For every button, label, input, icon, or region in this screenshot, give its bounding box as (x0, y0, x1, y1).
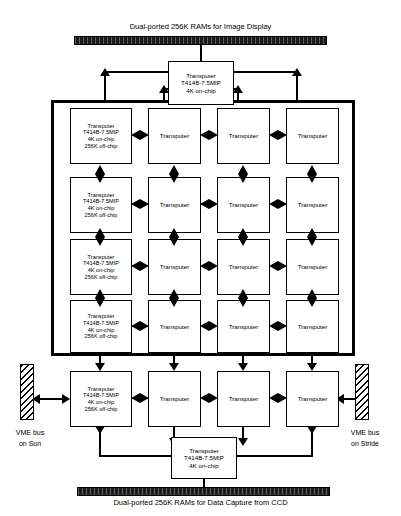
grid-node-r1c3-label: Transputer (229, 132, 259, 139)
grid-node-r2c1-line2: T414B-7.5MIP (83, 198, 119, 205)
vme-bus-sun-label-line1: VME bus (16, 429, 44, 436)
vme-bus-sun-label: VME bus on Sun (0, 428, 60, 449)
vme-bus-stride-label-line2: on Stride (351, 440, 379, 447)
link-r4c1-c2 (131, 321, 149, 332)
grid-node-r3c3-label: Transputer (229, 263, 259, 270)
link-r1c3-r2c3 (238, 165, 249, 183)
link-r5c3-c4 (269, 393, 287, 404)
display-controller-line2: T414B-7.5MIP (181, 79, 221, 86)
grid-node-r3c1[interactable]: Transputer T414B-7.5MIP 4K on-chip 256K … (70, 239, 132, 295)
grid-node-r4c2-label: Transputer (160, 323, 190, 330)
grid-node-r5c3[interactable]: Transputer (217, 371, 270, 427)
grid-node-r2c1-line4: 256K off-chip (85, 212, 118, 219)
vme-bus-sun-label-line2: on Sun (19, 440, 41, 447)
ram-to-display-link (200, 44, 202, 61)
grid-node-r3c3[interactable]: Transputer (217, 239, 270, 295)
capture-feed-col1-arrow (95, 426, 105, 434)
link-r1c2-r2c2 (169, 165, 180, 183)
grid-node-r2c1[interactable]: Transputer T414B-7.5MIP 4K on-chip 256K … (70, 177, 132, 233)
link-r3c1-r4c1 (95, 289, 106, 307)
grid-node-r3c2[interactable]: Transputer (148, 239, 201, 295)
link-r3c3-c4 (269, 261, 287, 272)
row4-to-row5-arrow-c4 (307, 363, 317, 371)
capture-controller-line1: Transputer (189, 447, 219, 454)
link-r5c2-c3 (200, 393, 218, 404)
grid-node-r1c2-label: Transputer (160, 132, 190, 139)
row4-to-row5-arrow-c2 (169, 363, 179, 371)
grid-node-r3c4-label: Transputer (298, 263, 328, 270)
row4-to-row5-arrow-c3 (238, 363, 248, 371)
grid-node-r1c1-line4: 256K off-chip (85, 143, 118, 150)
link-r3c1-c2 (131, 261, 149, 272)
grid-node-r1c1-line3: 4K on-chip (88, 136, 115, 143)
display-feed-rail-left (105, 71, 170, 73)
grid-node-r3c1-line4: 256K off-chip (85, 274, 118, 281)
grid-node-r4c1-line4: 256K off-chip (85, 333, 118, 340)
link-r2c1-r3c1 (95, 228, 106, 246)
grid-node-r1c1[interactable]: Transputer T414B-7.5MIP 4K on-chip 256K … (70, 108, 132, 164)
grid-node-r2c2-label: Transputer (160, 201, 190, 208)
capture-controller-node[interactable]: Transputer T414B-7.5MIP 4K on-chip (171, 437, 237, 479)
link-r2c2-c3 (200, 199, 218, 210)
grid-node-r3c1-line1: Transputer (88, 254, 115, 261)
grid-node-r4c3-label: Transputer (229, 323, 259, 330)
grid-node-r4c4[interactable]: Transputer (286, 300, 339, 353)
grid-node-r4c1[interactable]: Transputer T414B-7.5MIP 4K on-chip 256K … (70, 300, 132, 353)
grid-node-r2c2[interactable]: Transputer (148, 177, 201, 233)
link-r2c1-c2 (131, 199, 149, 210)
bottom-ram-bar (77, 487, 330, 496)
display-controller-node[interactable]: Transputer T414B-7.5MIP 4K on-chip (168, 61, 234, 105)
grid-node-r2c4-label: Transputer (298, 201, 328, 208)
grid-node-r5c1-line4: 256K off-chip (85, 406, 118, 413)
grid-node-r1c4[interactable]: Transputer (286, 108, 339, 164)
display-riser-col3-arrow (233, 85, 243, 93)
bottom-ram-caption: Dual-ported 256K RAMs for Data Capture f… (0, 498, 401, 507)
display-feed-rail-right (232, 71, 297, 73)
vme-bus-stride-label-line1: VME bus (351, 429, 379, 436)
grid-node-r4c4-label: Transputer (298, 323, 328, 330)
grid-node-r1c1-line1: Transputer (88, 123, 115, 130)
grid-node-r4c1-line2: T414B-7.5MIP (83, 320, 119, 327)
grid-node-r2c1-line1: Transputer (88, 192, 115, 199)
link-r1c4-r2c4 (307, 165, 318, 183)
link-r2c3-r3c3 (238, 228, 249, 246)
grid-node-r1c1-line2: T414B-7.5MIP (83, 129, 119, 136)
grid-node-r5c4[interactable]: Transputer (286, 371, 339, 427)
grid-node-r5c1-line1: Transputer (88, 386, 115, 393)
capture-feed-col1-rail (99, 455, 172, 457)
grid-node-r5c1[interactable]: Transputer T414B-7.5MIP 4K on-chip 256K … (70, 371, 132, 427)
row4-to-row5-arrow-c1 (95, 363, 105, 371)
link-r3c3-r4c3 (238, 289, 249, 307)
grid-node-r5c1-line3: 4K on-chip (88, 399, 115, 406)
display-riser-col1-arrow (100, 68, 110, 76)
vme-bus-sun-block (20, 364, 34, 420)
grid-node-r4c2[interactable]: Transputer (148, 300, 201, 353)
vme-sun-link-arrow-right (62, 394, 70, 404)
link-r5c1-c2 (131, 393, 149, 404)
grid-node-r3c4[interactable]: Transputer (286, 239, 339, 295)
vme-bus-stride-block (355, 364, 369, 420)
grid-node-r1c2[interactable]: Transputer (148, 108, 201, 164)
grid-node-r4c1-line1: Transputer (88, 313, 115, 320)
grid-node-r1c4-label: Transputer (298, 132, 328, 139)
link-r3c2-c3 (200, 261, 218, 272)
link-r3c4-r4c4 (307, 289, 318, 307)
grid-node-r2c4[interactable]: Transputer (286, 177, 339, 233)
top-ram-caption: Dual-ported 256K RAMs for Image Display (0, 22, 401, 31)
grid-node-r4c3[interactable]: Transputer (217, 300, 270, 353)
grid-node-r5c2-label: Transputer (160, 395, 190, 402)
grid-node-r2c3-label: Transputer (229, 201, 259, 208)
link-r2c4-r3c4 (307, 228, 318, 246)
grid-node-r3c1-line2: T414B-7.5MIP (83, 260, 119, 267)
link-r1c2-c3 (200, 130, 218, 141)
grid-node-r3c1-line3: 4K on-chip (88, 267, 115, 274)
link-r1c3-c4 (269, 130, 287, 141)
capture-controller-line3: 4K on-chip (189, 462, 219, 469)
grid-node-r2c3[interactable]: Transputer (217, 177, 270, 233)
grid-node-r3c2-label: Transputer (160, 263, 190, 270)
display-controller-line1: Transputer (186, 72, 216, 79)
grid-node-r5c3-label: Transputer (229, 395, 259, 402)
grid-node-r4c1-line3: 4K on-chip (88, 327, 115, 334)
grid-node-r1c3[interactable]: Transputer (217, 108, 270, 164)
grid-node-r5c2[interactable]: Transputer (148, 371, 201, 427)
